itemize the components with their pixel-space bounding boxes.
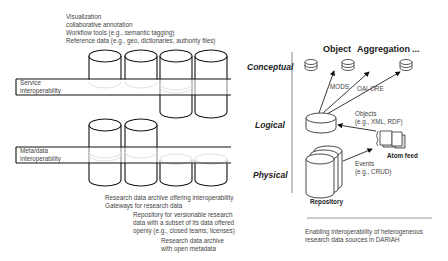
header-ellipsis: ... xyxy=(412,44,420,54)
repository-icon xyxy=(306,146,342,198)
label-repository-versionable: Repository for versionable research data… xyxy=(133,211,235,235)
label-research-archive-interop: Research data archive offering interoper… xyxy=(105,194,233,202)
arrow-label-oai-ore: OAI-ORE xyxy=(357,85,384,93)
service-interoperability-band: Service interoperability xyxy=(20,79,61,95)
arrow-label-mods: MODS xyxy=(330,83,349,91)
atom-feed-label: Atom feed xyxy=(387,152,418,160)
service-tools-list: Visualization collaborative annotation W… xyxy=(66,13,215,45)
label-gateways: Gateways for research data xyxy=(105,202,182,210)
header-aggregation: Aggregation xyxy=(357,44,410,54)
repository-label: Repository xyxy=(310,198,343,206)
label-visualization: Visualization xyxy=(66,13,215,21)
objects-label: Objects (e.g., XML, RDF) xyxy=(355,110,403,126)
events-label: Events (e.g., CRUD) xyxy=(355,160,391,176)
atom-feed-icon xyxy=(377,131,406,148)
level-physical: Physical xyxy=(253,170,288,180)
header-object: Object xyxy=(323,44,351,54)
metadata-interoperability-band: Meta/data interoperability xyxy=(20,147,61,163)
level-conceptual: Conceptual xyxy=(247,62,293,72)
label-reference-data: Reference data (e.g., geo, dictionaries,… xyxy=(66,37,215,45)
label-open-metadata-archive: Research data archive with open metadata xyxy=(161,237,224,253)
label-workflow-tools: Workflow tools (e.g., semantic tagging) xyxy=(66,29,215,37)
logical-db-icon xyxy=(306,113,336,133)
figure-caption: Enabling interoperability of heterogeneo… xyxy=(305,228,423,244)
label-collaborative-annotation: collaborative annotation xyxy=(66,21,215,29)
level-logical: Logical xyxy=(255,120,285,130)
